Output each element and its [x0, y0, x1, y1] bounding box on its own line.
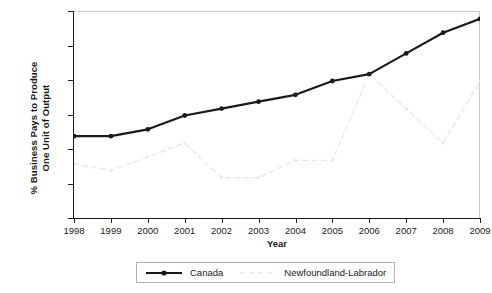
data-point: [74, 162, 76, 165]
x-tick-label: 2005: [312, 225, 352, 236]
x-tick-mark: [111, 218, 112, 223]
x-tick-label: 2009: [460, 225, 492, 236]
data-point: [146, 155, 149, 158]
data-point: [182, 113, 187, 118]
data-point: [183, 142, 186, 145]
data-point: [74, 134, 76, 139]
x-tick-mark: [185, 218, 186, 223]
legend-label: Canada: [190, 267, 223, 278]
data-point: [257, 176, 260, 179]
x-tick-mark: [480, 218, 481, 223]
chart-legend: CanadaNewfoundland-Labrador: [136, 262, 395, 283]
data-point: [256, 99, 261, 104]
x-tick-label: 2004: [276, 225, 316, 236]
data-point: [219, 106, 224, 111]
x-tick-mark: [259, 218, 260, 223]
x-tick-label: 2006: [349, 225, 389, 236]
data-point: [441, 30, 446, 35]
x-axis-title: Year: [74, 238, 480, 249]
series-newfoundland-labrador: [74, 73, 480, 180]
data-point: [330, 79, 335, 84]
x-tick-mark: [443, 218, 444, 223]
x-tick-mark: [332, 218, 333, 223]
legend-label: Newfoundland-Labrador: [284, 267, 386, 278]
dashed-line-icon: [239, 267, 277, 279]
y-tick-mark: [68, 184, 73, 185]
x-tick-mark: [148, 218, 149, 223]
x-tick-mark: [406, 218, 407, 223]
series-line: [74, 19, 480, 136]
data-point: [367, 72, 372, 77]
x-tick-label: 2003: [239, 225, 279, 236]
y-tick-mark: [68, 11, 73, 12]
legend-entry[interactable]: Canada: [145, 263, 223, 282]
y-tick-mark: [68, 218, 73, 219]
data-point: [145, 127, 150, 132]
data-point: [220, 176, 223, 179]
data-point: [294, 159, 297, 162]
x-tick-mark: [74, 218, 75, 223]
series-line: [74, 74, 480, 178]
x-tick-label: 2002: [202, 225, 242, 236]
data-point: [479, 80, 481, 83]
x-tick-mark: [369, 218, 370, 223]
x-tick-label: 1999: [91, 225, 131, 236]
x-tick-mark: [296, 218, 297, 223]
x-tick-label: 2008: [423, 225, 463, 236]
x-tick-label: 2001: [165, 225, 205, 236]
solid-line-with-marker-icon: [145, 267, 183, 279]
x-tick-label: 2007: [386, 225, 426, 236]
data-point: [404, 51, 409, 56]
x-tick-label: 1998: [54, 225, 94, 236]
y-tick-mark: [68, 80, 73, 81]
series-layer: [74, 17, 480, 180]
y-tick-mark: [68, 115, 73, 116]
x-tick-mark: [222, 218, 223, 223]
line-chart-figure: % Business Pays to Produce One Unit of O…: [0, 0, 492, 293]
data-point: [405, 107, 408, 110]
data-point: [293, 92, 298, 97]
data-point: [331, 159, 334, 162]
legend-entry[interactable]: Newfoundland-Labrador: [239, 263, 386, 282]
x-tick-label: 2000: [128, 225, 168, 236]
data-point: [109, 169, 112, 172]
data-point: [442, 142, 445, 145]
y-axis-title: % Business Pays to Produce One Unit of O…: [28, 23, 58, 233]
y-tick-mark: [68, 149, 73, 150]
plot-svg: [74, 12, 480, 219]
plot-area: [74, 11, 480, 218]
y-tick-mark: [68, 46, 73, 47]
data-point: [109, 134, 114, 139]
